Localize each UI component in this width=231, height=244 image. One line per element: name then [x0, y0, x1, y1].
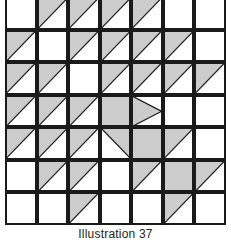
triangle-upper-left: [164, 63, 194, 94]
grid-cell: [5, 62, 37, 95]
grid-cell: [163, 30, 195, 63]
triangle-upper-left: [38, 161, 68, 192]
grid-cell: [131, 30, 163, 63]
triangle-upper-left: [6, 96, 36, 127]
triangle-upper-left: [101, 31, 131, 62]
grid-cell: [163, 160, 195, 193]
triangle-upper-left: [101, 63, 131, 94]
grid-cell: [163, 0, 195, 30]
grid-cell: [37, 95, 69, 128]
grid-cell: [5, 192, 37, 225]
tiling-grid-wrapper: [5, 0, 226, 225]
grid-cell: [131, 127, 163, 160]
grid-cell: [131, 95, 163, 128]
triangle-upper-left: [132, 0, 162, 29]
grid-cell: [100, 30, 132, 63]
triangle-upper-left: [69, 128, 99, 159]
figure-caption: Illustration 37: [0, 227, 231, 241]
grid-cell: [68, 95, 100, 128]
grid-cell: [68, 0, 100, 30]
grid-cell: [68, 127, 100, 160]
grid-cell: [37, 62, 69, 95]
grid-cell: [163, 192, 195, 225]
grid-cell: [131, 62, 163, 95]
grid-cell: [5, 30, 37, 63]
triangle-upper-left: [132, 31, 162, 62]
grid-cell: [68, 160, 100, 193]
triangle-upper-left: [69, 161, 99, 192]
grid-cell: [163, 127, 195, 160]
grid-cell: [37, 30, 69, 63]
grid-cell: [37, 127, 69, 160]
grid-cell: [131, 192, 163, 225]
grid-cell: [194, 192, 226, 225]
triangle-upper-left: [6, 31, 36, 62]
grid-cell: [131, 160, 163, 193]
grid-cell: [194, 127, 226, 160]
grid-cell: [100, 0, 132, 30]
triangle-upper-left: [38, 0, 68, 29]
triangle-upper-left: [195, 63, 225, 94]
triangle-left-half: [132, 96, 162, 127]
grid-cell: [5, 160, 37, 193]
triangle-upper-left: [69, 31, 99, 62]
grid-cell: [5, 127, 37, 160]
triangle-upper-left: [69, 96, 99, 127]
triangle-upper-left: [101, 0, 131, 29]
illustration-figure: Illustration 37: [0, 0, 231, 244]
triangle-upper-left: [164, 31, 194, 62]
grid-cell: [100, 95, 132, 128]
triangle-upper-left: [164, 193, 194, 224]
grid-cell: [194, 62, 226, 95]
triangle-upper-left: [195, 161, 225, 192]
grid-cell: [100, 62, 132, 95]
grid-cell: [37, 192, 69, 225]
triangle-upper-left: [6, 128, 36, 159]
tiling-grid: [5, 0, 226, 225]
grid-cell: [68, 30, 100, 63]
grid-cell: [68, 62, 100, 95]
triangle-upper-left: [38, 96, 68, 127]
grid-cell: [5, 0, 37, 30]
grid-cell: [194, 30, 226, 63]
triangle-upper-left: [164, 128, 194, 159]
grid-cell: [163, 95, 195, 128]
triangle-upper-left: [38, 128, 68, 159]
triangle-upper-left: [132, 63, 162, 94]
grid-cell: [68, 192, 100, 225]
grid-cell: [100, 192, 132, 225]
grid-cell: [5, 95, 37, 128]
grid-cell: [100, 127, 132, 160]
grid-cell: [100, 160, 132, 193]
triangle-upper-left: [38, 63, 68, 94]
triangle-upper-left: [132, 161, 162, 192]
triangle-upper-left: [6, 63, 36, 94]
triangle-upper-left: [69, 193, 99, 224]
grid-cell: [37, 0, 69, 30]
grid-cell: [194, 0, 226, 30]
triangle-upper-left: [69, 0, 99, 29]
grid-cell: [131, 0, 163, 30]
grid-cell: [194, 95, 226, 128]
triangle-upper-right: [101, 128, 131, 159]
grid-cell: [163, 62, 195, 95]
grid-cell: [194, 160, 226, 193]
grid-cell: [37, 160, 69, 193]
